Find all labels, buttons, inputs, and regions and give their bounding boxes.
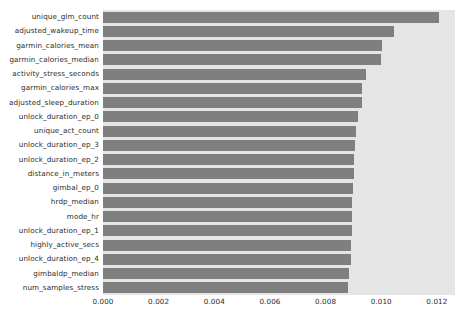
- x-tick-label: 0.012: [426, 297, 447, 306]
- y-tick-label: garmin_calories_median: [0, 56, 99, 64]
- bar: [103, 40, 382, 51]
- x-tick-label: 0.010: [371, 297, 392, 306]
- bar: [103, 197, 352, 208]
- bar: [103, 154, 354, 165]
- bar: [103, 211, 352, 222]
- bar: [103, 168, 354, 179]
- bar: [103, 97, 362, 108]
- plot-area: [103, 10, 455, 295]
- y-tick-label: gimbaldp_median: [0, 270, 99, 278]
- y-tick-label: garmin_calories_mean: [0, 42, 99, 50]
- bar: [103, 26, 394, 37]
- y-tick-label: distance_in_meters: [0, 170, 99, 178]
- bar: [103, 126, 356, 137]
- bar-series: [103, 10, 455, 295]
- bar: [103, 240, 351, 251]
- y-tick-label: mode_hr: [0, 213, 99, 221]
- y-tick-label: highly_active_secs: [0, 241, 99, 249]
- bar: [103, 12, 439, 23]
- y-tick-label: unlock_duration_ep_4: [0, 255, 99, 263]
- x-axis-tick-labels: 0.0000.0020.0040.0060.0080.0100.012: [0, 297, 470, 311]
- y-tick-label: num_samples_stress: [0, 284, 99, 292]
- bar: [103, 268, 349, 279]
- y-tick-label: unlock_duration_ep_2: [0, 156, 99, 164]
- bar-chart-figure: unique_glm_countadjusted_wakeup_timegarm…: [0, 0, 470, 324]
- y-tick-label: unique_act_count: [0, 127, 99, 135]
- y-axis-tick-labels: unique_glm_countadjusted_wakeup_timegarm…: [0, 10, 99, 295]
- bar: [103, 140, 355, 151]
- x-tick-label: 0.004: [204, 297, 225, 306]
- x-tick-label: 0.002: [148, 297, 169, 306]
- bar: [103, 54, 381, 65]
- y-tick-label: adjusted_sleep_duration: [0, 99, 99, 107]
- y-tick-label: adjusted_wakeup_time: [0, 27, 99, 35]
- y-tick-label: unlock_duration_ep_1: [0, 227, 99, 235]
- y-tick-label: garmin_calories_max: [0, 84, 99, 92]
- y-tick-label: unlock_duration_ep_0: [0, 113, 99, 121]
- x-tick-label: 0.006: [259, 297, 280, 306]
- bar: [103, 69, 366, 80]
- x-tick-label: 0.000: [92, 297, 113, 306]
- y-tick-label: unlock_duration_ep_3: [0, 141, 99, 149]
- y-tick-label: activity_stress_seconds: [0, 70, 99, 78]
- bar: [103, 183, 353, 194]
- y-tick-label: hrdp_median: [0, 198, 99, 206]
- bar: [103, 225, 352, 236]
- bar: [103, 83, 362, 94]
- x-tick-label: 0.008: [315, 297, 336, 306]
- bar: [103, 282, 348, 293]
- y-tick-label: unique_glm_count: [0, 13, 99, 21]
- bar: [103, 254, 351, 265]
- bar: [103, 111, 358, 122]
- y-tick-label: gimbal_ep_0: [0, 184, 99, 192]
